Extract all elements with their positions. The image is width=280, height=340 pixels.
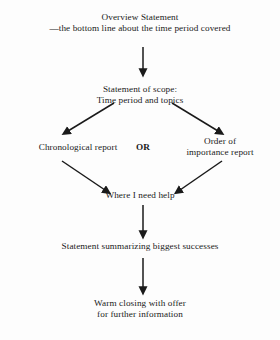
node-overview-line-1: Overview Statement	[0, 12, 280, 23]
node-order-of-importance-line-1: Order of	[166, 136, 274, 147]
node-where-i-need-help: Where I need help	[78, 190, 202, 201]
edge-order-of-importance-to-help	[180, 161, 222, 190]
node-closing-line-1: Warm closing with offer	[0, 298, 280, 309]
node-order-of-importance-line-2: importance report	[166, 147, 274, 158]
node-order-of-importance-report: Order of importance report	[166, 136, 274, 159]
node-warm-closing: Warm closing with offer for further info…	[0, 298, 280, 321]
arrow-layer	[0, 0, 280, 340]
node-statement-of-scope: Statement of scope: Time period and topi…	[0, 84, 280, 107]
node-scope-line-1: Statement of scope:	[0, 84, 280, 95]
connector-label-or: OR	[118, 142, 168, 152]
node-scope-line-2: Time period and topics	[0, 95, 280, 106]
edge-scope-to-chronological	[68, 103, 114, 131]
node-closing-line-2: for further information	[0, 309, 280, 320]
node-overview-line-2: —the bottom line about the time period c…	[0, 23, 280, 34]
node-summary-label: Statement summarizing biggest successes	[0, 241, 280, 252]
node-statement-summarizing-successes: Statement summarizing biggest successes	[0, 241, 280, 252]
edge-chronological-to-help	[62, 161, 105, 190]
node-overview-statement: Overview Statement —the bottom line abou…	[0, 12, 280, 35]
edge-scope-to-order-of-importance	[172, 103, 218, 131]
flowchart-diagram: Overview Statement —the bottom line abou…	[0, 0, 280, 340]
node-where-i-need-help-label: Where I need help	[78, 190, 202, 201]
